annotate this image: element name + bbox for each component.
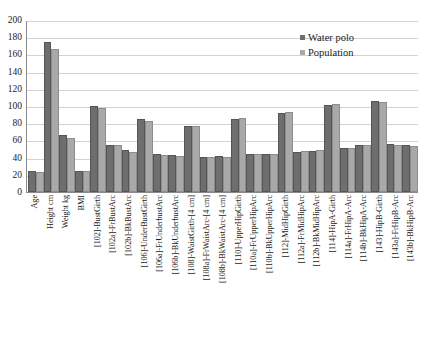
bar-series-1	[122, 150, 130, 192]
bar-series-2	[301, 151, 309, 192]
x-axis-tick-label: Weight kg	[62, 195, 70, 228]
x-axis-tick-label: [110b]-BkUpperHipArc	[266, 195, 274, 273]
bar-series-2	[363, 145, 371, 192]
bar-group	[168, 21, 184, 192]
bar-series-2	[67, 138, 75, 192]
x-axis-tick-label: [108a]-FrWaistArc-[4 cm]	[203, 195, 211, 280]
x-axis-tick-label: [112]-MidHipGirth	[282, 195, 290, 258]
bar-series-2	[239, 118, 247, 192]
x-axis-tick: [114a]-FrHipA-Arc	[341, 195, 357, 341]
bar-series-1	[371, 101, 379, 192]
bar-group	[137, 21, 153, 192]
bar-chart: 200180160140120100806040200 AgeHeight cm…	[0, 0, 425, 341]
y-axis-tick-label: 40	[13, 154, 23, 163]
bar-group	[200, 21, 216, 192]
bar-series-2	[129, 152, 137, 192]
x-axis-tick: Weight kg	[58, 195, 74, 341]
bar-series-1	[278, 113, 286, 192]
legend-item-population: Population	[300, 45, 354, 60]
y-axis-tick-label: 80	[13, 119, 23, 128]
y-axis-tick-label: 180	[8, 33, 22, 42]
bar-group	[59, 21, 75, 192]
bar-group	[355, 21, 371, 192]
bar-series-1	[324, 105, 332, 192]
bar-series-2	[410, 146, 418, 192]
x-axis-tick: [112b]-BkMidHipArc	[309, 195, 325, 341]
plot-area	[26, 21, 418, 193]
bar-group	[246, 21, 262, 192]
bar-series-1	[215, 156, 223, 192]
x-axis-tick: [110b]-BkUpperHipArc	[262, 195, 278, 341]
bar-series-1	[402, 145, 410, 192]
bar-series-1	[90, 106, 98, 192]
bar-series-1	[28, 171, 36, 192]
x-axis-tick: Age	[27, 195, 43, 341]
x-axis-tick-label: [108b]-BkWaistArc-[4 cm]	[219, 195, 227, 283]
y-axis-tick-label: 140	[8, 68, 22, 77]
bar-group	[402, 21, 418, 192]
bar-series-1	[59, 135, 67, 192]
x-axis-tick: [112a]-FrMidHipArc	[294, 195, 310, 341]
x-axis-tick: [143a]-FrHipB-Arc	[388, 195, 404, 341]
x-axis-tick: [143b]-BkHipB-Arc	[404, 195, 420, 341]
x-axis-labels: AgeHeight cmWeight kgBMI[102]-BustGirth[…	[26, 195, 419, 341]
x-axis-tick-label: [102b]-BkBustArc	[125, 195, 133, 256]
x-axis-tick: [108b]-BkWaistArc-[4 cm]	[215, 195, 231, 341]
x-axis-tick: [102b]-BkBustArc	[121, 195, 137, 341]
bar-series-2	[223, 157, 231, 192]
x-axis-tick: [114b]-BkHipA-Arc	[356, 195, 372, 341]
bar-series-1	[184, 126, 192, 193]
x-axis-tick-label: [114a]-FrHipA-Arc	[344, 195, 352, 258]
x-axis-tick: [110]-UpperHipGirth	[231, 195, 247, 341]
y-axis-tick-label: 60	[13, 136, 23, 145]
series-1-swatch-icon	[300, 35, 305, 40]
bar-series-2	[36, 172, 44, 192]
x-axis-tick: [112]-MidHipGirth	[278, 195, 294, 341]
x-axis-tick: [110a]-FrUpperHipArc	[247, 195, 263, 341]
bar-series-2	[161, 155, 169, 192]
x-axis-tick-label: [108]-WaistGirth-[4 cm]	[188, 195, 196, 274]
series-2-swatch-icon	[300, 50, 305, 55]
x-axis-tick: Height cm	[43, 195, 59, 341]
bar-series-1	[231, 119, 239, 192]
bar-series-1	[246, 154, 254, 192]
x-axis-tick: [114]-HipA-Girth	[325, 195, 341, 341]
x-axis-tick-label: [102a]-FrBustArc	[109, 195, 117, 253]
bar-series-2	[332, 104, 340, 192]
legend-label-series-2: Population	[308, 45, 354, 60]
bar-series-2	[192, 126, 200, 193]
bar-series-1	[309, 151, 317, 192]
bar-group	[28, 21, 44, 192]
bar-series-2	[98, 108, 106, 192]
y-axis-tick-label: 0	[17, 188, 22, 197]
x-axis-tick: BMI	[74, 195, 90, 341]
bar-series-2	[51, 49, 59, 192]
bar-group	[106, 21, 122, 192]
bar-group	[278, 21, 294, 192]
bar-series-2	[145, 121, 153, 192]
x-axis-tick-label: [106b]-BkUnderbustArc	[172, 195, 180, 274]
x-axis-tick-label: [143]-HipB-Girth	[376, 195, 384, 252]
y-axis-tick-label: 20	[13, 171, 23, 180]
bar-series-2	[270, 154, 278, 192]
x-axis-tick: [106b]-BkUnderbustArc	[168, 195, 184, 341]
x-axis-tick-label: [114]-HipA-Girth	[329, 195, 337, 253]
y-axis-labels: 200180160140120100806040200	[0, 21, 24, 193]
bar-group	[262, 21, 278, 192]
bar-series-1	[168, 155, 176, 192]
bar-group	[153, 21, 169, 192]
bar-series-1	[387, 144, 395, 192]
y-axis-tick-label: 120	[8, 85, 22, 94]
bar-group	[215, 21, 231, 192]
x-axis-tick-label: Height cm	[46, 195, 54, 229]
bar-group	[90, 21, 106, 192]
x-axis-tick: [108]-WaistGirth-[4 cm]	[184, 195, 200, 341]
bar-series-2	[394, 145, 402, 192]
bar-series-1	[137, 119, 145, 192]
x-axis-tick-label: [143b]-BkHipB-Arc	[407, 195, 415, 261]
x-axis-tick: [102a]-FrBustArc	[105, 195, 121, 341]
x-axis-tick-label: [102]-BustGirth	[93, 195, 101, 247]
x-axis-tick: [106a]-FrUnderbustArc	[153, 195, 169, 341]
x-axis-tick-label: BMI	[78, 195, 86, 210]
y-axis-tick-label: 200	[8, 16, 22, 25]
